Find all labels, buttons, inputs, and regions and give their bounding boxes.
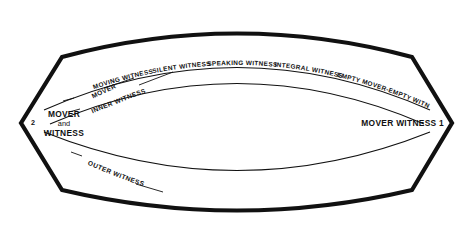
- right-vertex-label: MOVER WITNESS 1: [361, 118, 444, 128]
- left-vertex-label-line2: and: [58, 119, 70, 128]
- left-vertex-label-line3: WITNESS: [44, 128, 84, 138]
- diagram-canvas: MOVING WITNESS SILENT WITNESS SPEAKING W…: [0, 0, 474, 233]
- vesica-diagram: MOVING WITNESS SILENT WITNESS SPEAKING W…: [0, 0, 474, 233]
- left-vertex-number: 2: [31, 118, 35, 127]
- left-vertex-label-line1: MOVER: [48, 109, 80, 119]
